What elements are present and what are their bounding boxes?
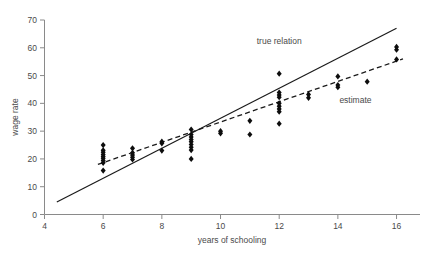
data-point bbox=[247, 118, 252, 124]
y-tick-label: 10 bbox=[28, 182, 38, 192]
data-point bbox=[130, 145, 135, 151]
y-tick-label: 20 bbox=[28, 154, 38, 164]
y-axis-title: wage rate bbox=[10, 98, 20, 137]
x-tick-label: 14 bbox=[333, 221, 343, 231]
trend-lines-group bbox=[57, 28, 403, 202]
y-tick-label: 40 bbox=[28, 98, 38, 108]
x-tick-label: 16 bbox=[392, 221, 402, 231]
data-point bbox=[335, 73, 340, 79]
x-tick-label: 4 bbox=[42, 221, 47, 231]
data-point bbox=[306, 91, 311, 97]
series-annotation-label: estimate bbox=[339, 95, 371, 105]
data-point bbox=[247, 131, 252, 137]
data-points-group bbox=[101, 44, 399, 174]
estimate-line bbox=[98, 59, 403, 165]
data-point bbox=[189, 156, 194, 162]
y-axis-ticks: 010203040506070 bbox=[28, 15, 45, 220]
x-axis-ticks: 46810121416 bbox=[42, 215, 401, 232]
data-point bbox=[159, 147, 164, 153]
data-point bbox=[101, 167, 106, 173]
data-point bbox=[277, 71, 282, 77]
axes-group bbox=[45, 20, 421, 215]
y-tick-label: 0 bbox=[32, 210, 37, 220]
true-relation-line bbox=[57, 28, 397, 202]
series-annotation-label: true relation bbox=[257, 36, 302, 46]
y-tick-label: 30 bbox=[28, 126, 38, 136]
data-point bbox=[365, 79, 370, 85]
data-point bbox=[101, 142, 106, 148]
x-tick-label: 12 bbox=[274, 221, 284, 231]
y-tick-label: 60 bbox=[28, 43, 38, 53]
x-tick-label: 6 bbox=[101, 221, 106, 231]
y-tick-label: 50 bbox=[28, 71, 38, 81]
scatter-chart: 010203040506070 46810121416 wage rate ye… bbox=[0, 0, 428, 256]
chart-canvas: 010203040506070 46810121416 wage rate ye… bbox=[0, 0, 428, 256]
x-tick-label: 10 bbox=[216, 221, 226, 231]
y-tick-label: 70 bbox=[28, 15, 38, 25]
x-axis-title: years of schooling bbox=[198, 235, 267, 245]
data-point bbox=[277, 121, 282, 127]
x-tick-label: 8 bbox=[159, 221, 164, 231]
